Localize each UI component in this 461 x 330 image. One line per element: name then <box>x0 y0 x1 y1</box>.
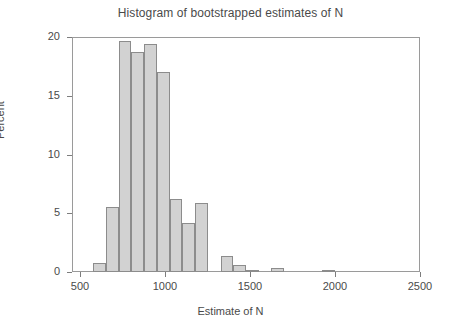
histogram-bar <box>195 203 208 272</box>
x-axis-tick-label: 1500 <box>225 281 275 292</box>
x-axis-tick-label: 2500 <box>395 281 445 292</box>
histogram-bar <box>144 44 157 272</box>
x-axis-tick <box>250 272 251 277</box>
x-axis-tick-label: 2000 <box>310 281 360 292</box>
histogram-bar <box>131 52 144 272</box>
histogram-bar <box>157 72 170 272</box>
x-axis-tick-label: 500 <box>55 281 105 292</box>
y-axis-tick-label: 10 <box>26 149 60 160</box>
histogram-bar <box>271 268 284 272</box>
y-axis-label: Percent <box>0 101 6 139</box>
histogram-bar <box>119 41 132 272</box>
y-axis-tick-label: 20 <box>26 31 60 42</box>
y-axis-tick-label: 5 <box>26 207 60 218</box>
chart-title: Histogram of bootstrapped estimates of N <box>0 6 461 20</box>
y-axis-tick-label: 15 <box>26 90 60 101</box>
y-axis-tick <box>67 272 72 273</box>
histogram-bar <box>322 270 335 272</box>
x-axis-tick <box>335 272 336 277</box>
histogram-figure: Histogram of bootstrapped estimates of N… <box>0 0 461 330</box>
histogram-bar <box>221 256 234 272</box>
y-axis-tick-label: 0 <box>26 266 60 277</box>
x-axis-tick <box>420 272 421 277</box>
histogram-bar <box>106 207 119 272</box>
histogram-bar <box>233 265 246 272</box>
x-axis-tick <box>80 272 81 277</box>
histogram-bar <box>182 223 195 272</box>
histogram-bar <box>246 270 259 272</box>
histogram-bar <box>93 263 106 272</box>
x-axis-tick-label: 1000 <box>140 281 190 292</box>
x-axis-tick <box>165 272 166 277</box>
plot-area <box>72 37 420 272</box>
x-axis-label: Estimate of N <box>0 305 461 317</box>
histogram-bar <box>170 199 183 272</box>
